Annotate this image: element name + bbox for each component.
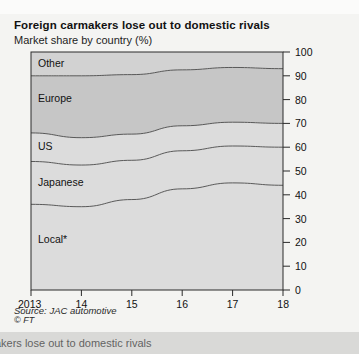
band-label: Japanese bbox=[38, 176, 84, 188]
band-label: Local* bbox=[38, 233, 67, 245]
y-tick-label: 10 bbox=[295, 260, 307, 272]
y-tick-label: 0 bbox=[295, 284, 301, 296]
x-tick-label: 15 bbox=[126, 298, 138, 310]
bottom-caption: armakers lose out to domestic rivals bbox=[0, 337, 151, 349]
plot-area: 010203040506070809010020131415161718Othe… bbox=[0, 0, 359, 332]
y-tick-label: 40 bbox=[295, 189, 307, 201]
band-label: US bbox=[38, 140, 53, 152]
y-tick-label: 50 bbox=[295, 165, 307, 177]
y-tick-label: 20 bbox=[295, 236, 307, 248]
x-tick-label: 17 bbox=[227, 298, 239, 310]
bottom-strip: armakers lose out to domestic rivals bbox=[0, 332, 359, 354]
y-tick-label: 90 bbox=[295, 70, 307, 82]
x-tick-label: 16 bbox=[176, 298, 188, 310]
band-label: Europe bbox=[38, 92, 72, 104]
y-tick-label: 60 bbox=[295, 141, 307, 153]
y-tick-label: 80 bbox=[295, 94, 307, 106]
stacked-area-chart: 010203040506070809010020131415161718Othe… bbox=[0, 0, 359, 332]
chart-figure: Foreign carmakers lose out to domestic r… bbox=[0, 0, 359, 332]
x-tick-label: 18 bbox=[277, 298, 289, 310]
y-tick-label: 100 bbox=[295, 46, 313, 58]
band-label: Other bbox=[38, 57, 65, 69]
copyright-note: © FT bbox=[14, 315, 34, 325]
y-tick-label: 70 bbox=[295, 117, 307, 129]
y-tick-label: 30 bbox=[295, 213, 307, 225]
